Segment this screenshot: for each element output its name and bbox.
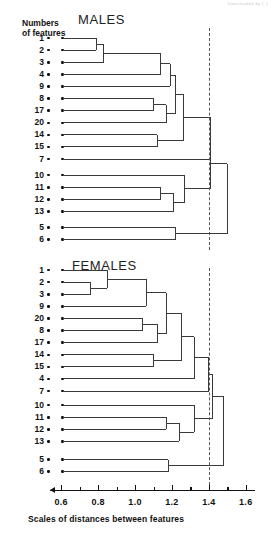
axis-tick-label: 1.0 — [128, 497, 141, 507]
axis-tick-label: 1.2 — [165, 497, 178, 507]
axis-tick-major — [209, 485, 210, 491]
axis-tick-label: 1.4 — [202, 497, 215, 507]
axis-tick-major — [61, 485, 62, 491]
axis-tick-minor — [190, 487, 191, 491]
x-axis: 0.60.81.01.21.41.6 — [0, 478, 272, 508]
axis-tick-minor — [227, 487, 228, 491]
axis-tick-minor — [117, 487, 118, 491]
axis-tick-major — [172, 485, 173, 491]
x-axis-caption: Scales of distances between features — [28, 514, 184, 524]
threshold-line-males — [209, 28, 210, 250]
threshold-line-females — [209, 268, 210, 490]
axis-tick-minor — [154, 487, 155, 491]
axis-tick-label: 1.6 — [239, 497, 252, 507]
axis-tick-label: 0.8 — [91, 497, 104, 507]
axis-tick-major — [135, 485, 136, 491]
axis-tick-label: 0.6 — [55, 497, 68, 507]
axis-tick-major — [246, 485, 247, 491]
dendrogram-figure: Downloaded by [..] Numbers of features M… — [0, 0, 272, 534]
dendrogram-tree-females — [0, 0, 272, 534]
axis-tick-minor — [80, 487, 81, 491]
axis-tick-major — [98, 485, 99, 491]
